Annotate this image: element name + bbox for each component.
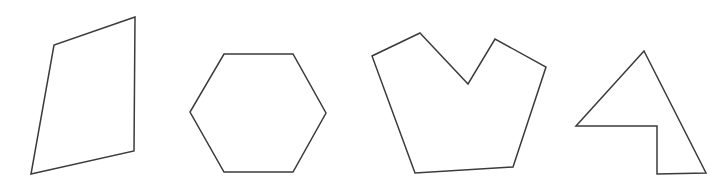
shape-quadrilateral xyxy=(31,17,135,174)
shapes-canvas xyxy=(0,0,721,185)
shape-hexagon xyxy=(190,54,326,172)
shape-arrow-pentagon xyxy=(576,51,706,174)
shape-crown-heptagon xyxy=(372,33,546,173)
shapes-svg xyxy=(0,0,721,185)
